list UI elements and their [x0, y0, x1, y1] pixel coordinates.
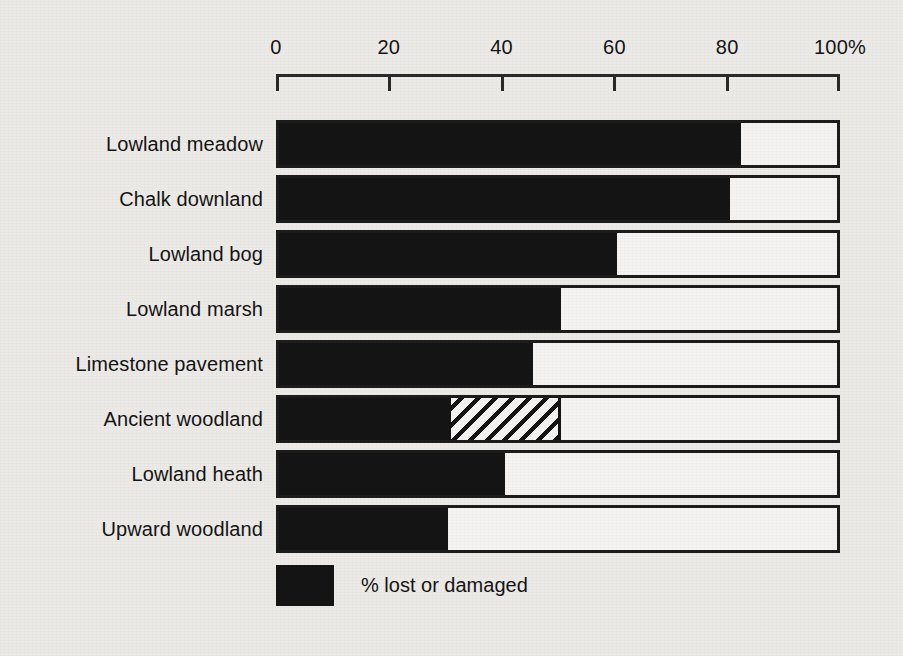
legend-swatch-lost-or-damaged [276, 565, 334, 606]
bar-row: Lowland meadow [0, 120, 903, 168]
legend-label-lost-or-damaged: % lost or damaged [361, 574, 528, 597]
x-axis-tick-label-20: 20 [377, 36, 400, 59]
x-axis-tick-mark-20 [388, 74, 391, 91]
bar-track [276, 175, 840, 223]
bar-segment-lost-or-damaged [279, 398, 448, 440]
bar-segment-lost-or-damaged [279, 288, 561, 330]
x-axis-tick-mark-100 [837, 74, 840, 91]
category-label-lowland-meadow: Lowland meadow [106, 133, 263, 156]
bar-row: Lowland bog [0, 230, 903, 278]
bar-segment-hatched [448, 398, 561, 440]
x-axis-line [276, 74, 840, 77]
x-axis-tick-label-40: 40 [490, 36, 513, 59]
bar-track [276, 505, 840, 553]
x-axis-tick-label-60: 60 [603, 36, 626, 59]
x-axis-tick-mark-80 [726, 74, 729, 91]
bar-row: Upward woodland [0, 505, 903, 553]
x-axis-tick-label-100: 100% [814, 36, 866, 59]
bar-track [276, 340, 840, 388]
bar-segment-lost-or-damaged [279, 123, 741, 165]
bar-segment-lost-or-damaged [279, 178, 730, 220]
bar-track [276, 450, 840, 498]
bar-track [276, 230, 840, 278]
bar-segment-lost-or-damaged [279, 453, 505, 495]
x-axis-tick-mark-40 [501, 74, 504, 91]
category-label-lowland-bog: Lowland bog [148, 243, 263, 266]
category-label-limestone-pavement: Limestone pavement [76, 353, 263, 376]
bar-segment-lost-or-damaged [279, 233, 617, 275]
bar-row: Chalk downland [0, 175, 903, 223]
bar-row: Lowland marsh [0, 285, 903, 333]
x-axis-tick-mark-0 [276, 74, 279, 91]
x-axis-tick-label-80: 80 [716, 36, 739, 59]
bar-segment-lost-or-damaged [279, 508, 448, 550]
bar-row: Lowland heath [0, 450, 903, 498]
category-label-upward-woodland: Upward woodland [101, 518, 263, 541]
bar-track [276, 120, 840, 168]
bar-track [276, 285, 840, 333]
bar-segment-lost-or-damaged [279, 343, 533, 385]
bar-track [276, 395, 840, 443]
x-axis-tick-label-0: 0 [270, 36, 281, 59]
category-label-lowland-marsh: Lowland marsh [126, 298, 263, 321]
legend: % lost or damaged [276, 563, 528, 607]
x-axis-tick-mark-60 [613, 74, 616, 91]
bar-row: Limestone pavement [0, 340, 903, 388]
category-label-chalk-downland: Chalk downland [119, 188, 263, 211]
category-label-lowland-heath: Lowland heath [132, 463, 263, 486]
habitat-loss-bar-chart: 020406080100% Lowland meadowChalk downla… [0, 0, 903, 656]
bar-row: Ancient woodland [0, 395, 903, 443]
category-label-ancient-woodland: Ancient woodland [104, 408, 264, 431]
